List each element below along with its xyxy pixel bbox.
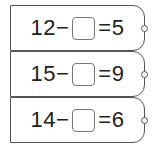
answer-box[interactable]	[72, 17, 95, 40]
equation: 12 − = 5	[31, 15, 125, 41]
minuend: 14	[31, 107, 56, 133]
equals-sign: =	[98, 61, 111, 87]
equals-sign: =	[98, 15, 111, 41]
problem-row-2: 15 − = 9	[10, 51, 145, 97]
ring-hole-icon	[141, 117, 148, 124]
difference: 6	[112, 107, 125, 133]
equals-sign: =	[98, 107, 111, 133]
minus-sign: −	[56, 107, 69, 133]
difference: 9	[112, 61, 125, 87]
ring-hole-icon	[141, 71, 148, 78]
equation: 15 − = 9	[31, 61, 125, 87]
problem-row-3: 14 − = 6	[10, 97, 145, 143]
problem-row-1: 12 − = 5	[10, 5, 145, 51]
answer-box[interactable]	[72, 63, 95, 86]
ring-hole-icon	[141, 25, 148, 32]
answer-box[interactable]	[72, 109, 95, 132]
minuend: 15	[31, 61, 56, 87]
minuend: 12	[31, 15, 56, 41]
minus-sign: −	[56, 15, 69, 41]
equation: 14 − = 6	[31, 107, 125, 133]
difference: 5	[112, 15, 125, 41]
minus-sign: −	[56, 61, 69, 87]
worksheet-card-stack: 12 − = 5 15 − = 9 14 − = 6	[10, 5, 145, 144]
